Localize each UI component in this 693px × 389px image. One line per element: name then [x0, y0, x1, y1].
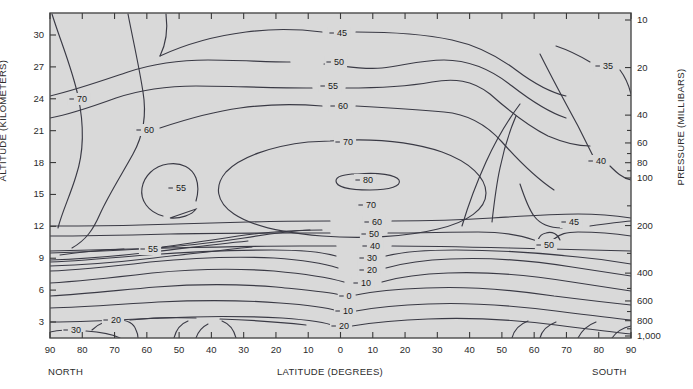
svg-text:45: 45	[569, 217, 579, 227]
svg-text:70: 70	[366, 200, 376, 210]
x-tick-label: 40	[199, 344, 223, 355]
x-tick-label: 0	[329, 344, 353, 355]
y2-tick-label: 60	[637, 137, 667, 148]
svg-text:80: 80	[363, 175, 373, 185]
x-tick-label: 80	[70, 344, 94, 355]
contour-label: 20	[358, 264, 380, 276]
contour-label: 30	[358, 252, 380, 264]
y2-tick-label: 200	[637, 220, 667, 231]
y-tick-label: 3	[22, 316, 44, 327]
x-tick-label: 20	[264, 344, 288, 355]
y-tick-label: 9	[22, 252, 44, 263]
x-tick-label: 70	[554, 344, 578, 355]
svg-text:40: 40	[596, 156, 606, 166]
y-tick-label: 27	[22, 61, 44, 72]
y2-tick-label: 20	[637, 62, 667, 73]
x-tick-label: 60	[135, 344, 159, 355]
contour-label: 55	[139, 243, 161, 255]
contour-label: 40	[587, 155, 609, 167]
y2-tick-label: 800	[637, 315, 667, 326]
x-tick-label: 50	[167, 344, 191, 355]
x-tick-label: 10	[296, 344, 320, 355]
x-tick-label: 10	[361, 344, 385, 355]
y-tick-label: 30	[22, 29, 44, 40]
svg-text:30: 30	[71, 325, 81, 335]
contour-label: 70	[68, 93, 90, 105]
svg-text:20: 20	[111, 315, 121, 325]
svg-text:55: 55	[328, 81, 338, 91]
contour-label: 50	[360, 228, 382, 240]
contour-label: 50	[535, 239, 557, 251]
x-tick-label: 40	[458, 344, 482, 355]
north-hemisphere-label: NORTH	[48, 366, 83, 377]
svg-text:0: 0	[346, 291, 351, 301]
svg-text:60: 60	[338, 101, 348, 111]
svg-text:60: 60	[372, 217, 382, 227]
svg-text:70: 70	[343, 137, 353, 147]
svg-text:40: 40	[370, 241, 380, 251]
y-axis-title: ALTITUDE (KILOMETERS)	[0, 60, 8, 182]
x-tick-label: 80	[587, 344, 611, 355]
contour-label: 20	[102, 314, 124, 326]
x-tick-label: 30	[425, 344, 449, 355]
svg-text:55: 55	[148, 244, 158, 254]
contour-label: 20	[330, 320, 352, 332]
contour-label: 10	[352, 277, 374, 289]
y2-tick-label: 1,000	[637, 330, 667, 341]
y-tick-label: 15	[22, 188, 44, 199]
y-tick-label: 24	[22, 93, 44, 104]
y2-tick-label: 10	[637, 14, 667, 25]
contour-plot: 7060555545505560708070605040302010010203…	[0, 0, 693, 389]
contour-label: 10	[334, 305, 356, 317]
svg-text:50: 50	[369, 229, 379, 239]
contour-label: 50	[325, 56, 347, 68]
x-tick-label: 70	[103, 344, 127, 355]
svg-text:50: 50	[334, 57, 344, 67]
contour-label: 80	[354, 174, 376, 186]
svg-text:60: 60	[144, 125, 154, 135]
south-hemisphere-label: SOUTH	[592, 366, 627, 377]
y-tick-label: 12	[22, 220, 44, 231]
y-tick-label: 6	[22, 284, 44, 295]
svg-text:30: 30	[367, 253, 377, 263]
contour-label: 55	[319, 80, 341, 92]
svg-text:50: 50	[544, 240, 554, 250]
y-tick-label: 21	[22, 125, 44, 136]
svg-text:20: 20	[367, 265, 377, 275]
x-tick-label: 60	[522, 344, 546, 355]
svg-text:10: 10	[361, 278, 371, 288]
x-tick-label: 90	[619, 344, 643, 355]
contour-label: 30	[62, 324, 84, 336]
contour-label: 45	[560, 216, 582, 228]
x-tick-label: 50	[490, 344, 514, 355]
y2-tick-label: 100	[637, 172, 667, 183]
contour-label: 70	[334, 136, 356, 148]
contour-label: 55	[167, 182, 189, 194]
svg-text:35: 35	[603, 61, 613, 71]
svg-text:55: 55	[176, 183, 186, 193]
y2-axis-title: PRESSURE (MILLIBARS)	[675, 69, 686, 186]
y2-tick-label: 80	[637, 157, 667, 168]
svg-text:10: 10	[343, 306, 353, 316]
contour-label: 70	[357, 199, 379, 211]
x-tick-label: 20	[393, 344, 417, 355]
y2-tick-label: 400	[637, 267, 667, 278]
contour-label: 45	[328, 27, 350, 39]
svg-text:70: 70	[77, 94, 87, 104]
contour-label: 60	[135, 124, 157, 136]
contour-label: 0	[338, 290, 355, 302]
y-tick-label: 18	[22, 157, 44, 168]
x-tick-label: 90	[38, 344, 62, 355]
contour-label: 35	[594, 60, 616, 72]
x-tick-label: 30	[232, 344, 256, 355]
svg-text:20: 20	[339, 321, 349, 331]
svg-text:45: 45	[337, 28, 347, 38]
contour-label: 40	[361, 240, 383, 252]
contour-label: 60	[363, 216, 385, 228]
y2-tick-label: 40	[637, 109, 667, 120]
contour-label: 60	[329, 100, 351, 112]
y2-tick-label: 600	[637, 295, 667, 306]
contour-figure: 7060555545505560708070605040302010010203…	[0, 0, 693, 389]
x-axis-title: LATITUDE (DEGREES)	[277, 366, 383, 377]
